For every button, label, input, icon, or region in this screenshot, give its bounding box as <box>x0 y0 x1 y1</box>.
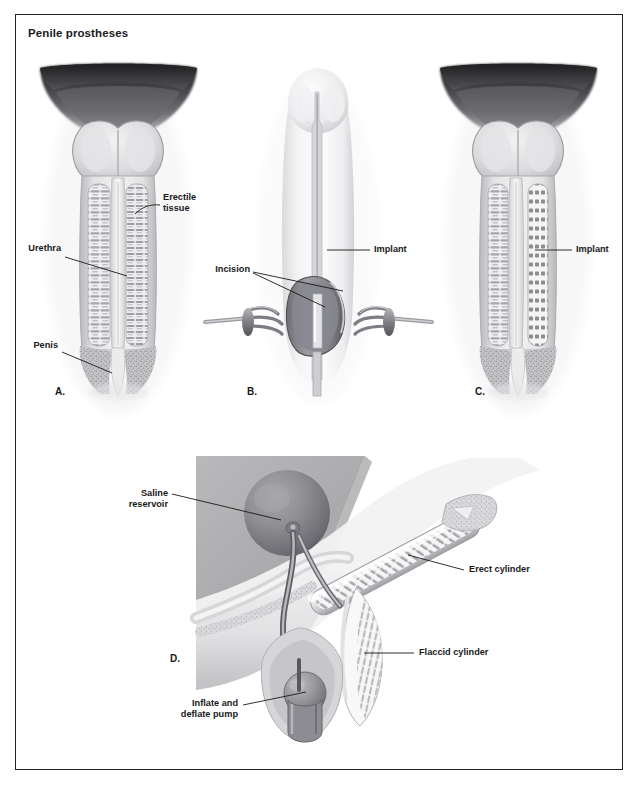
figure-root: Penile prostheses <box>0 0 635 790</box>
panel-letter-a: A. <box>55 386 65 397</box>
label-implant-c: Implant <box>576 244 609 255</box>
panel-letter-b: B. <box>247 386 257 397</box>
label-saline-reservoir: Saline reservoir <box>100 488 168 509</box>
label-implant-b: Implant <box>374 244 407 255</box>
panel-letter-c: C. <box>475 386 485 397</box>
panel-letter-d: D. <box>170 653 180 664</box>
label-flaccid-cylinder: Flaccid cylinder <box>419 647 488 658</box>
label-erect-cylinder: Erect cylinder <box>469 564 530 575</box>
label-erectile-tissue: Erectile tissue <box>163 192 196 213</box>
label-penis: Penis <box>0 340 58 351</box>
label-incision: Incision <box>186 264 250 275</box>
page-title: Penile prostheses <box>28 27 128 39</box>
label-inflate-deflate-pump: Inflate and deflate pump <box>170 698 238 719</box>
label-urethra: Urethra <box>0 243 61 254</box>
figure-frame <box>15 14 623 770</box>
